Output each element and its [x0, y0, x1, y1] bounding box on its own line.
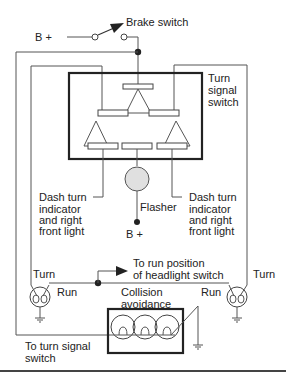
wiring-diagram: B + Brake switch Turn signal switch Dash…: [0, 0, 286, 375]
to-turn-label-1: To turn signal: [25, 340, 90, 352]
right-lamp: [227, 285, 247, 322]
turn-signal-switch-label-2: signal: [208, 84, 237, 96]
brake-switch-label: Brake switch: [126, 16, 188, 28]
dash-left-label-4: front light: [39, 225, 84, 237]
collision-label-1: Collision: [121, 286, 163, 298]
turn-signal-switch-label-1: Turn: [208, 72, 230, 84]
left-lamp: [30, 285, 50, 322]
headlight-arrow: [116, 266, 128, 276]
flasher-label: Flasher: [140, 201, 177, 213]
b-plus-bottom-label: B +: [126, 228, 143, 240]
run-right-label: Run: [201, 286, 221, 298]
headlight-label-2: of headlight switch: [133, 269, 224, 281]
turn-signal-switch-label-3: switch: [208, 96, 239, 108]
headlight-label-1: To run position: [133, 257, 205, 269]
dash-left-label-1: Dash turn: [39, 191, 87, 203]
turn-right-label: Turn: [253, 268, 275, 280]
dash-right-label-4: front light: [189, 225, 234, 237]
run-left-label: Run: [57, 286, 77, 298]
b-plus-top-label: B +: [35, 31, 52, 43]
brake-switch: [92, 23, 138, 87]
to-turn-label-2: switch: [25, 352, 56, 364]
dash-right-label-1: Dash turn: [189, 191, 237, 203]
turn-left-label: Turn: [33, 268, 55, 280]
flasher: [125, 167, 149, 191]
